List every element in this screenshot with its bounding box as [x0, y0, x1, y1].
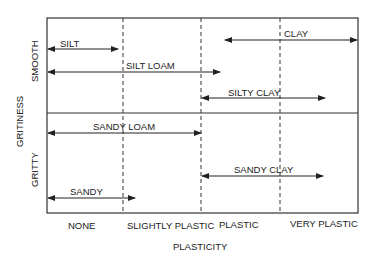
- label-sandy-clay: SANDY CLAY: [234, 165, 293, 175]
- label-silt-loam: SILT LOAM: [126, 61, 175, 71]
- plot-frame: [47, 18, 358, 213]
- label-clay: CLAY: [284, 29, 308, 39]
- x-axis-title: PLASTICITY: [173, 242, 227, 252]
- label-silt: SILT: [60, 39, 79, 49]
- y-region-gritty: GRITTY: [30, 152, 40, 187]
- label-sandy-loam: SANDY LOAM: [93, 122, 155, 132]
- y-axis-title: GRITINESS: [15, 96, 25, 147]
- label-sandy: SANDY: [70, 187, 103, 197]
- x-category-slightly-plastic: SLIGHTLY PLASTIC: [127, 221, 214, 231]
- x-category-plastic: PLASTIC: [219, 220, 259, 230]
- soil-texture-diagram: SILT SILT LOAM CLAY SILTY CLAY SANDY LOA…: [0, 0, 370, 261]
- label-silty-clay: SILTY CLAY: [228, 88, 280, 98]
- x-category-none: NONE: [68, 221, 95, 231]
- y-region-smooth: SMOOTH: [30, 40, 40, 82]
- x-category-very-plastic: VERY PLASTIC: [290, 219, 358, 229]
